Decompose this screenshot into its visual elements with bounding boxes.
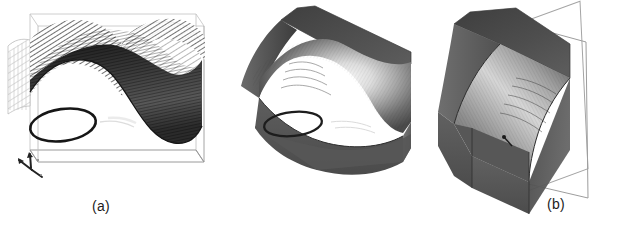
trough-striae (331, 121, 375, 133)
panel-c: (c) (420, 0, 630, 229)
panel-a-caption: (a) (92, 198, 110, 214)
ellipse-annotation (28, 105, 98, 146)
panel-a: (a) (0, 0, 215, 229)
figure-container: (a) (0, 0, 630, 229)
panel-c-graphic (420, 0, 630, 229)
panel-a-graphic (0, 0, 215, 229)
wireframe-wing-left (8, 39, 30, 114)
panel-b: (b) (215, 0, 420, 229)
axis-triad-icon (16, 148, 48, 180)
panel-b-graphic (215, 0, 420, 229)
trough-contour-lines (281, 62, 331, 95)
